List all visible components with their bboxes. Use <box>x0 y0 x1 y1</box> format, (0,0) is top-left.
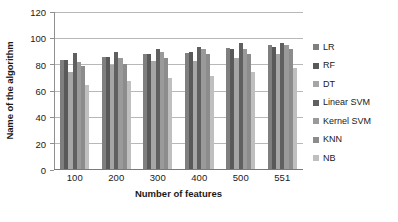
bars-layer <box>54 12 303 170</box>
y-axis-tick <box>50 38 54 39</box>
legend-item-lr[interactable]: LR <box>313 38 397 57</box>
y-axis-tick-labels: 020406080100120 <box>18 12 50 170</box>
legend-item-nb[interactable]: NB <box>313 149 397 168</box>
legend-label: RF <box>323 61 335 70</box>
bar-chart: Name of the algorithm 020406080100120 10… <box>0 0 398 222</box>
legend-swatch-icon <box>313 100 319 106</box>
x-axis-tick-labels: 100200300400500551 <box>54 172 303 186</box>
bar-group <box>179 12 221 169</box>
y-axis-tick-label: 80 <box>35 59 46 70</box>
legend-swatch-icon <box>313 81 319 87</box>
legend-swatch-icon <box>313 118 319 124</box>
bar-group <box>137 12 179 169</box>
legend-label: LR <box>323 43 335 52</box>
legend-item-knn[interactable]: KNN <box>313 131 397 150</box>
legend-swatch-icon <box>313 155 319 161</box>
legend-label: NB <box>323 154 336 163</box>
x-axis-title: Number of features <box>54 188 303 199</box>
y-axis-tick-label: 20 <box>35 138 46 149</box>
legend-item-rf[interactable]: RF <box>313 57 397 76</box>
bar <box>127 81 131 169</box>
bar-group <box>54 12 96 169</box>
x-axis-tick-label: 100 <box>67 172 83 183</box>
bar-group <box>262 12 304 169</box>
y-axis-tick-label: 60 <box>35 86 46 97</box>
y-axis-tick-label: 100 <box>30 33 46 44</box>
legend-item-kernel-svm[interactable]: Kernel SVM <box>313 112 397 131</box>
bar-group <box>96 12 138 169</box>
x-axis-tick-label: 200 <box>108 172 124 183</box>
bar <box>210 76 214 169</box>
legend-item-dt[interactable]: DT <box>313 75 397 94</box>
y-axis-tick <box>50 143 54 144</box>
x-axis-tick-label: 400 <box>191 172 207 183</box>
bar <box>251 72 255 169</box>
legend: LRRFDTLinear SVMKernel SVMKNNNB <box>313 38 397 168</box>
x-axis-tick-label: 551 <box>274 172 290 183</box>
y-axis-tick <box>50 170 54 171</box>
y-axis-tick-label: 40 <box>35 112 46 123</box>
y-axis-title: Name of the algorithm <box>0 0 18 180</box>
y-axis-tick-label: 120 <box>30 7 46 18</box>
y-axis-tick <box>50 64 54 65</box>
legend-swatch-icon <box>313 137 319 143</box>
legend-swatch-icon <box>313 44 319 50</box>
x-axis-tick-label: 300 <box>150 172 166 183</box>
y-axis-tick <box>50 117 54 118</box>
legend-item-linear-svm[interactable]: Linear SVM <box>313 94 397 113</box>
y-axis-tick <box>50 12 54 13</box>
legend-label: Kernel SVM <box>323 117 371 126</box>
bar <box>85 85 89 169</box>
bar <box>293 68 297 169</box>
legend-label: KNN <box>323 135 342 144</box>
y-axis-tick-label: 0 <box>41 165 46 176</box>
bar <box>168 78 172 169</box>
bar-group <box>220 12 262 169</box>
plot-area <box>54 12 303 170</box>
legend-label: DT <box>323 80 335 89</box>
x-axis-tick-label: 500 <box>233 172 249 183</box>
y-axis-tick <box>50 91 54 92</box>
y-axis-title-text: Name of the algorithm <box>4 41 15 139</box>
legend-swatch-icon <box>313 63 319 69</box>
legend-label: Linear SVM <box>323 98 370 107</box>
